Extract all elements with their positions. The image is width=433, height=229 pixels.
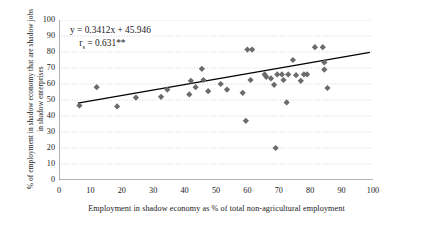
data-point-marker	[199, 66, 205, 72]
x-axis-tick-label: 10	[78, 186, 102, 195]
data-point-marker	[224, 87, 230, 93]
data-point-marker	[321, 67, 327, 73]
x-axis-tick-label: 60	[235, 186, 259, 195]
data-point-marker	[158, 94, 164, 100]
x-axis-tick-label: 30	[141, 186, 165, 195]
data-point-marker	[186, 91, 192, 97]
x-axis-tick-labels: 0102030405060708090100	[59, 186, 373, 200]
data-point-marker	[280, 77, 286, 83]
data-point-marker	[290, 57, 296, 63]
trendline	[78, 52, 370, 103]
data-point-marker	[298, 78, 304, 84]
data-point-marker	[268, 75, 274, 81]
y-axis-tick-label: 90	[35, 31, 55, 40]
y-axis-tick-label: 70	[35, 63, 55, 72]
y-axis-tick-label: 100	[35, 15, 55, 24]
data-point-marker	[284, 99, 290, 105]
y-axis-tick-label: 20	[35, 143, 55, 152]
y-axis-tick-label: 10	[35, 159, 55, 168]
y-axis-tick-label: 30	[35, 127, 55, 136]
y-axis-tick-labels: 1009080706050403020100	[33, 20, 55, 180]
x-axis-tick-label: 80	[298, 186, 322, 195]
x-axis-tick-label: 40	[173, 186, 197, 195]
y-axis-tick-label: 40	[35, 111, 55, 120]
data-point-marker	[94, 84, 100, 90]
data-point-marker	[304, 71, 310, 77]
x-axis-tick-label: 70	[267, 186, 291, 195]
data-point-marker	[205, 88, 211, 94]
y-axis-title-container: % of employment in shadow economy that a…	[0, 0, 36, 200]
y-axis-tick-label: 80	[35, 47, 55, 56]
data-point-marker	[312, 44, 318, 50]
regression-annotation: y = 0.3412x + 45.946 rs = 0.631**	[70, 24, 151, 53]
data-point-marker	[273, 145, 279, 151]
scatter-chart-figure: % of employment in shadow economy that a…	[0, 0, 433, 229]
x-axis-tick-label: 0	[47, 186, 71, 195]
data-point-marker	[247, 77, 253, 83]
y-axis-tick-label: 0	[35, 175, 55, 184]
data-point-marker	[324, 85, 330, 91]
data-point-marker	[240, 90, 246, 96]
regression-equation: y = 0.3412x + 45.946	[70, 24, 151, 37]
data-point-marker	[271, 82, 277, 88]
x-axis-tick-label: 90	[330, 186, 354, 195]
x-axis-title: Employment in shadow economy as % of tot…	[59, 204, 374, 213]
data-point-marker	[320, 44, 326, 50]
x-axis-tick-label: 100	[361, 186, 385, 195]
y-axis-tick-label: 50	[35, 95, 55, 104]
correlation-statistic: rs = 0.631**	[70, 37, 151, 53]
x-axis-tick-label: 20	[110, 186, 134, 195]
data-point-marker	[279, 71, 285, 77]
correlation-value: = 0.631**	[85, 38, 125, 48]
data-point-marker	[114, 103, 120, 109]
data-point-marker	[218, 81, 224, 87]
y-axis-tick-label: 60	[35, 79, 55, 88]
data-point-marker	[133, 95, 139, 101]
data-point-marker	[285, 71, 291, 77]
data-point-marker	[293, 72, 299, 78]
data-points	[76, 44, 330, 151]
data-point-marker	[243, 118, 249, 124]
trendline-group	[78, 52, 370, 103]
data-point-marker	[192, 84, 198, 90]
x-axis-tick-label: 50	[204, 186, 228, 195]
data-point-marker	[76, 103, 82, 109]
